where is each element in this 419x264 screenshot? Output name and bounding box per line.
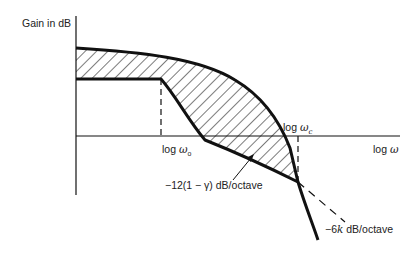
high-slope-label: −6k dB/octave bbox=[325, 224, 393, 235]
omega-o-prefix: log bbox=[162, 143, 179, 155]
y-axis-label: Gain in dB bbox=[22, 18, 71, 29]
omega-o-sub: o bbox=[188, 150, 192, 157]
x-axis-label: log ω bbox=[373, 144, 399, 155]
omega-c-label: log ωc bbox=[283, 122, 312, 136]
x-axis-symbol: ω bbox=[390, 143, 399, 155]
slope-arrow bbox=[233, 158, 251, 180]
omega-o-label: log ωo bbox=[162, 144, 191, 157]
omega-c-prefix: log bbox=[283, 121, 300, 133]
mid-slope-label: −12(1 − γ) dB/octave bbox=[165, 180, 262, 191]
omega-c-sub: c bbox=[309, 128, 313, 136]
omega-c-symbol: ω bbox=[300, 121, 309, 133]
x-axis-prefix: log bbox=[373, 143, 390, 155]
high-slope-prefix: −6 bbox=[325, 223, 337, 235]
high-slope-suffix: dB/octave bbox=[343, 223, 393, 235]
omega-o-symbol: ω bbox=[179, 143, 188, 155]
